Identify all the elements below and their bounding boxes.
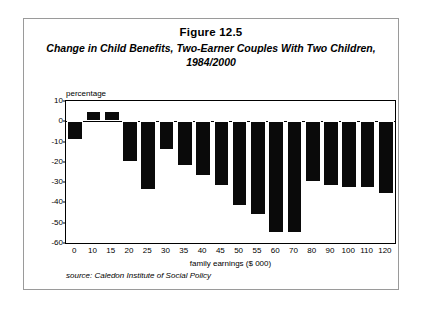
bar: [159, 121, 175, 149]
x-tick-label: 15: [106, 246, 115, 256]
x-tick-label: 120: [378, 246, 391, 256]
bar: [122, 121, 138, 162]
bar: [378, 121, 394, 194]
y-tick-label: -40: [51, 198, 63, 206]
x-tick-label: 30: [161, 246, 170, 256]
bar: [104, 111, 120, 121]
source-note: source: Caledon Institute of Social Poli…: [66, 271, 211, 281]
gridline: [66, 243, 395, 244]
x-tick-label: 80: [307, 246, 316, 256]
x-tick-label: 0: [72, 246, 76, 256]
bar: [360, 121, 376, 188]
x-tick-label: 20: [125, 246, 134, 256]
chart-plot-area: percentage 100-10-20-30-40-50-60 0101520…: [24, 19, 400, 291]
y-tick-label: -30: [51, 178, 63, 186]
bar: [341, 121, 357, 188]
bar: [268, 121, 284, 233]
bar: [214, 121, 230, 186]
x-tick-label: 45: [216, 246, 225, 256]
y-tick-label: 0: [59, 117, 63, 125]
bar: [323, 121, 339, 186]
y-tick-label: -20: [51, 158, 63, 166]
x-tick-label: 90: [326, 246, 335, 256]
x-tick-label: 35: [179, 246, 188, 256]
bar: [250, 121, 266, 214]
y-tick-label: -50: [51, 219, 63, 227]
x-tick-label: 70: [289, 246, 298, 256]
figure-panel: Figure 12.5 Change in Child Benefits, Tw…: [23, 18, 399, 290]
x-tick-label: 50: [234, 246, 243, 256]
y-axis-label: percentage: [66, 89, 106, 98]
x-axis-label: family earnings ($ 000): [65, 259, 396, 269]
x-tick-label: 25: [143, 246, 152, 256]
plot-box: 100-10-20-30-40-50-60: [65, 100, 396, 244]
x-tick-label: 110: [360, 246, 373, 256]
x-tick-label: 60: [271, 246, 280, 256]
y-tick-label: 10: [54, 97, 63, 105]
y-tick-label: -10: [51, 138, 63, 146]
bar: [67, 121, 83, 139]
bar: [232, 121, 248, 206]
bar-series: [66, 101, 395, 243]
bar: [140, 121, 156, 190]
x-tick-label: 10: [88, 246, 97, 256]
bar: [86, 111, 102, 121]
bar: [305, 121, 321, 182]
bar: [287, 121, 303, 233]
x-tick-label: 55: [252, 246, 261, 256]
x-tick-label: 100: [342, 246, 355, 256]
bar: [195, 121, 211, 176]
y-tick-label: -60: [51, 239, 63, 247]
bar: [177, 121, 193, 166]
x-tick-label: 40: [198, 246, 207, 256]
x-axis-ticks: 01015202530354045505560708090100110120: [65, 246, 396, 258]
